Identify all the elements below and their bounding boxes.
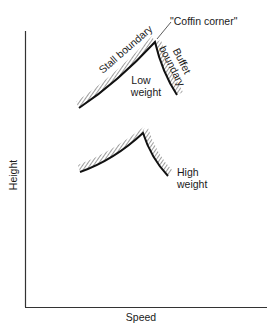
low-weight-label-line1: Low bbox=[131, 74, 151, 86]
coffin-corner-leader-line bbox=[157, 22, 171, 39]
high-weight-stall-hatch bbox=[78, 126, 145, 172]
x-axis-label: Speed bbox=[126, 311, 157, 323]
coffin-corner-label: "Coffin corner" bbox=[170, 15, 238, 27]
high-weight-label-line1: High bbox=[177, 166, 199, 178]
flight-envelope-diagram: Height Speed "Coffin corner" Stall bound… bbox=[0, 0, 278, 332]
low-weight-label-line2: weight bbox=[130, 86, 161, 98]
y-axis-label: Height bbox=[7, 160, 19, 190]
high-weight-buffet-hatch bbox=[143, 128, 173, 176]
high-weight-envelope bbox=[78, 126, 173, 176]
axes bbox=[25, 31, 267, 308]
high-weight-label-line2: weight bbox=[176, 178, 207, 190]
